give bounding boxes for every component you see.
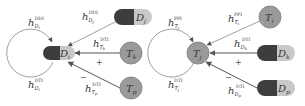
label-edge-dp: hDpDTI <box>228 84 245 98</box>
interaction-diagram: Di Dj Tk Tp hDiDDI hDiDTI hDjDDI hTkDTI … <box>0 0 305 106</box>
center-node-drug-di: Di <box>43 46 75 60</box>
neighbor-node-drug-dk: Dk <box>257 45 295 61</box>
label-self-top: hDiDDI <box>28 16 44 30</box>
sign-minus: − <box>80 73 87 82</box>
label-edge-dj: hDjDDI <box>82 10 98 24</box>
sign-minus: − <box>225 73 232 82</box>
neighbor-node-target-tk: Tk <box>120 42 142 64</box>
neighbor-node-target-tp: Tp <box>120 77 142 99</box>
neighbor-node-drug-dp: Dp <box>257 80 295 96</box>
neighbor-node-drug-dj: Dj <box>114 9 152 25</box>
label-self-bottom: hTjDTI <box>168 78 183 92</box>
center-node-target-tj: Tj <box>187 42 209 64</box>
left-panel: Di Dj Tk Tp hDiDDI hDiDTI hDjDDI hTkDTI … <box>7 9 152 99</box>
sign-plus: + <box>96 58 103 67</box>
edge-dj-to-di <box>68 22 115 46</box>
right-panel: Tj Ti Dk Dp hTjPPI hTjDTI hTiPPI hDkDTI … <box>148 6 295 98</box>
label-edge-dk: hDkDTI <box>234 37 251 51</box>
label-self-bottom: hDiDTI <box>28 78 43 92</box>
label-edge-tk: hTkDTI <box>93 37 109 51</box>
label-self-top: hTjPPI <box>168 16 182 30</box>
neighbor-node-target-ti: Ti <box>259 6 281 28</box>
label-edge-tp: hTpDTI <box>85 82 101 96</box>
sign-plus: + <box>235 58 242 67</box>
label-edge-ti: hTiPPI <box>228 12 242 26</box>
